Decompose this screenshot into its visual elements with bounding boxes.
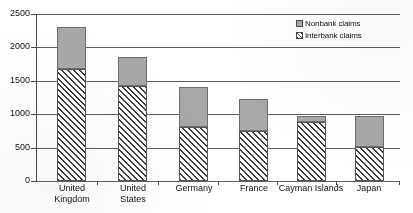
ytick-label-500: 500 (2, 143, 30, 152)
gridline-1500 (36, 81, 400, 82)
legend-item-interbank-claims[interactable]: Interbank claims (296, 30, 362, 41)
bar-segment-nonbank-france[interactable] (239, 99, 268, 131)
bar-group-united-kingdom[interactable] (57, 27, 86, 181)
xaxis-label-japan: Japan (340, 183, 398, 194)
gridline-1000 (36, 114, 400, 115)
gridline-2000 (36, 47, 400, 48)
bar-segment-interbank-cayman-islands[interactable] (297, 122, 326, 182)
legend-swatch-nonbank-icon (296, 20, 303, 27)
ytick-label-0: 0 (2, 176, 30, 185)
ytick-0 (31, 181, 36, 182)
legend: Nonbank claims Interbank claims (296, 18, 362, 42)
ytick-1000 (31, 114, 36, 115)
plot-area: 2500 2000 1500 1000 500 0 (0, 0, 413, 213)
bar-segment-interbank-japan[interactable] (355, 147, 384, 181)
bar-segment-nonbank-united-kingdom[interactable] (57, 27, 86, 69)
bar-segment-interbank-germany[interactable] (179, 127, 208, 181)
bar-segment-interbank-united-states[interactable] (118, 86, 147, 182)
bar-group-france[interactable] (239, 99, 268, 181)
axis-y (36, 14, 37, 182)
xaxis-label-cayman-islands: Cayman Islands (275, 183, 347, 194)
legend-item-nonbank-claims[interactable]: Nonbank claims (296, 18, 362, 29)
xaxis-label-germany: Germany (162, 183, 226, 194)
bar-segment-nonbank-japan[interactable] (355, 116, 384, 147)
ytick-label-1500: 1500 (2, 76, 30, 85)
ytick-2000 (31, 47, 36, 48)
bar-chart: 2500 2000 1500 1000 500 0 (0, 0, 413, 213)
ytick-1500 (31, 81, 36, 82)
ytick-label-1000: 1000 (2, 109, 30, 118)
bar-group-germany[interactable] (179, 87, 208, 181)
xaxis-label-united-states: United States (102, 183, 164, 204)
gridline-2500 (36, 14, 400, 15)
ytick-2500 (31, 14, 36, 15)
bar-segment-nonbank-united-states[interactable] (118, 57, 147, 86)
bar-group-japan[interactable] (355, 116, 384, 181)
ytick-label-2000: 2000 (2, 42, 30, 51)
bar-group-cayman-islands[interactable] (297, 116, 326, 181)
ytick-500 (31, 148, 36, 149)
xtick-6 (399, 181, 400, 185)
bar-segment-interbank-france[interactable] (239, 131, 268, 181)
legend-label-nonbank: Nonbank claims (305, 19, 361, 28)
legend-label-interbank: Interbank claims (305, 31, 362, 40)
legend-swatch-interbank-icon (296, 32, 303, 39)
ytick-label-2500: 2500 (2, 9, 30, 18)
bar-group-united-states[interactable] (118, 57, 147, 181)
bar-segment-nonbank-germany[interactable] (179, 87, 208, 127)
gridline-500 (36, 148, 400, 149)
xaxis-label-united-kingdom: United Kingdom (41, 183, 103, 204)
bar-segment-interbank-united-kingdom[interactable] (57, 69, 86, 181)
